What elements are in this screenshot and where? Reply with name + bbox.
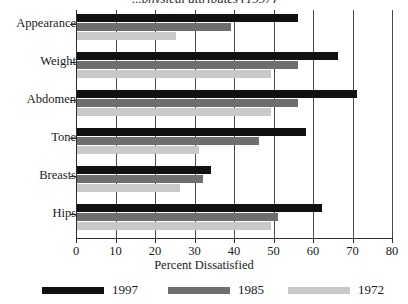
x-axis-tick xyxy=(195,238,196,243)
y-axis-label-appearance: Appearance xyxy=(0,17,76,29)
bar xyxy=(77,175,203,183)
y-axis-tick xyxy=(70,100,76,101)
legend-swatch-1985 xyxy=(168,287,230,294)
legend-label-1997: 1997 xyxy=(112,282,138,298)
bar xyxy=(77,99,298,107)
x-axis-tick-label-30: 30 xyxy=(175,244,215,259)
y-axis-label-hips: Hips xyxy=(0,207,76,219)
bar xyxy=(77,61,298,69)
bar xyxy=(77,204,322,212)
plot-area xyxy=(76,10,392,238)
x-axis-tick-label-60: 60 xyxy=(293,244,333,259)
legend-label-1972: 1972 xyxy=(358,282,384,298)
legend-swatch-1997 xyxy=(42,287,104,294)
x-axis-tick-label-70: 70 xyxy=(333,244,373,259)
x-axis-tick xyxy=(234,238,235,243)
legend-item-1972[interactable]: 1972 xyxy=(288,282,384,298)
x-axis-tick-label-40: 40 xyxy=(214,244,254,259)
bar xyxy=(77,184,180,192)
x-axis-tick xyxy=(274,238,275,243)
y-axis-tick xyxy=(70,138,76,139)
x-axis-tick-label-80: 80 xyxy=(372,244,408,259)
x-axis-tick xyxy=(392,238,393,243)
bar-group xyxy=(77,50,393,88)
x-axis-tick xyxy=(313,238,314,243)
bar xyxy=(77,32,176,40)
y-axis-label-abdomen: Abdomen xyxy=(0,93,76,105)
bar xyxy=(77,23,231,31)
x-axis-tick xyxy=(353,238,354,243)
bar xyxy=(77,146,199,154)
y-axis-label-weight: Weight xyxy=(0,55,76,67)
bar-group xyxy=(77,12,393,50)
chart-legend: 199719851972 xyxy=(0,282,408,300)
x-axis-tick-label-50: 50 xyxy=(254,244,294,259)
x-axis-tick-label-20: 20 xyxy=(135,244,175,259)
x-axis-tick-label-10: 10 xyxy=(96,244,136,259)
chart-title: ...physical attributes (1997) xyxy=(0,0,408,3)
bar-chart: ...physical attributes (1997) Appearance… xyxy=(0,0,408,304)
bar-group xyxy=(77,202,393,240)
bar xyxy=(77,108,271,116)
bar xyxy=(77,70,271,78)
bar xyxy=(77,128,306,136)
bar xyxy=(77,213,278,221)
bar xyxy=(77,52,338,60)
x-axis-title: Percent Dissatisfied xyxy=(0,258,408,273)
bar-group xyxy=(77,126,393,164)
legend-item-1985[interactable]: 1985 xyxy=(168,282,264,298)
x-axis-tick-label-0: 0 xyxy=(56,244,96,259)
bar-group xyxy=(77,164,393,202)
x-axis-tick xyxy=(155,238,156,243)
bar xyxy=(77,90,357,98)
legend-item-1997[interactable]: 1997 xyxy=(42,282,138,298)
legend-swatch-1972 xyxy=(288,287,350,294)
y-axis-label-tone: Tone xyxy=(0,131,76,143)
y-axis-label-breasts: Breasts xyxy=(0,169,76,181)
bar xyxy=(77,137,259,145)
y-axis-tick xyxy=(70,176,76,177)
x-axis-tick xyxy=(116,238,117,243)
bar-group xyxy=(77,88,393,126)
y-axis-tick xyxy=(70,214,76,215)
bar xyxy=(77,166,211,174)
bar xyxy=(77,14,298,22)
y-axis-tick xyxy=(70,24,76,25)
x-axis-tick xyxy=(76,238,77,243)
y-axis-tick xyxy=(70,62,76,63)
legend-label-1985: 1985 xyxy=(238,282,264,298)
bar xyxy=(77,222,271,230)
